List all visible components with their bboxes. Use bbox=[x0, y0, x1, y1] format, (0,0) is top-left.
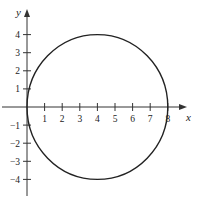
y-tick-label: −3 bbox=[10, 157, 20, 167]
x-axis-label: x bbox=[185, 111, 191, 123]
x-tick-label: 3 bbox=[77, 114, 82, 124]
axes bbox=[2, 9, 187, 196]
x-axis-arrow-icon bbox=[179, 104, 187, 110]
x-tick-label: 5 bbox=[113, 114, 118, 124]
chart-canvas: 12345678−4−3−2−11234 x y bbox=[0, 0, 202, 206]
y-tick-label: −4 bbox=[10, 175, 20, 185]
y-axis-label: y bbox=[15, 6, 21, 18]
x-tick-label: 6 bbox=[130, 114, 135, 124]
y-tick-label: −2 bbox=[10, 139, 20, 149]
y-tick-label: −1 bbox=[10, 121, 20, 131]
y-tick-label: 1 bbox=[15, 84, 20, 94]
x-tick-label: 7 bbox=[148, 114, 153, 124]
x-tick-label: 4 bbox=[95, 114, 100, 124]
y-tick-label: 2 bbox=[15, 66, 20, 76]
x-tick-label: 1 bbox=[42, 114, 47, 124]
y-tick-label: 4 bbox=[15, 30, 20, 40]
x-tick-label: 2 bbox=[60, 114, 65, 124]
y-tick-label: 3 bbox=[15, 48, 20, 58]
y-axis-arrow-icon bbox=[24, 9, 30, 17]
